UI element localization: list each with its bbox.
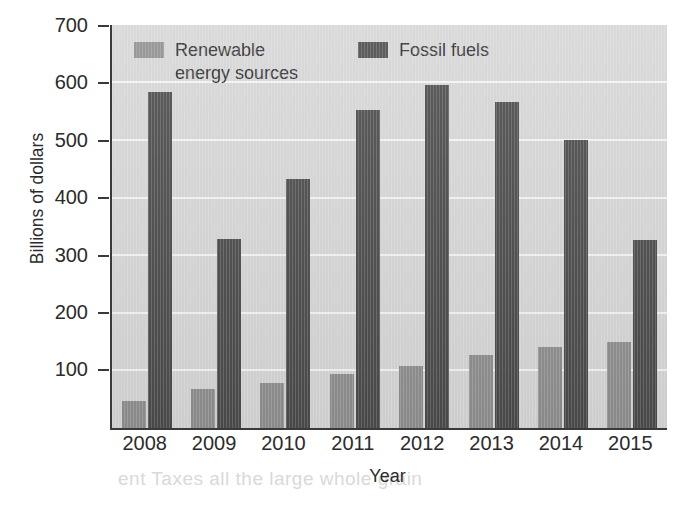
bar-fossil-fuels-2009 [217, 239, 241, 428]
legend-swatch-fossil-fuels-icon [358, 42, 388, 58]
bar-fossil-fuels-2008 [148, 92, 172, 428]
y-tick-label: 200 [42, 302, 88, 322]
x-tick-label: 2010 [249, 433, 318, 453]
bar-group-container [112, 25, 667, 428]
bar-renewable-2009 [191, 389, 215, 428]
y-tick-mark [98, 312, 109, 314]
y-tick-label: 500 [42, 130, 88, 150]
bar-renewable-2015 [607, 342, 631, 428]
legend-label-renewable: Renewable energy sources [175, 39, 298, 84]
y-tick-mark [98, 140, 109, 142]
legend-item-renewable: Renewable energy sources [134, 39, 298, 84]
y-tick-mark [98, 82, 109, 84]
bar-renewable-2011 [330, 374, 354, 428]
y-tick-mark [98, 197, 109, 199]
y-tick-label: 400 [42, 187, 88, 207]
bar-fossil-fuels-2010 [286, 179, 310, 428]
x-tick-label: 2014 [526, 433, 595, 453]
x-tick-label: 2012 [388, 433, 457, 453]
y-axis-tick-labels: 700 600 500 400 300 200 100 [36, 0, 88, 440]
y-tick-mark [98, 369, 109, 371]
legend-item-fossil-fuels: Fossil fuels [358, 39, 489, 62]
bar-fossil-fuels-2013 [495, 102, 519, 428]
x-tick-label: 2013 [457, 433, 526, 453]
bar-fossil-fuels-2014 [564, 140, 588, 428]
bar-renewable-2010 [260, 383, 284, 428]
bar-fossil-fuels-2012 [425, 85, 449, 428]
bar-renewable-2008 [122, 401, 146, 428]
x-tick-label: 2009 [179, 433, 248, 453]
x-tick-label: 2015 [596, 433, 665, 453]
y-tick-label: 700 [42, 15, 88, 35]
y-tick-label: 600 [42, 72, 88, 92]
bar-renewable-2012 [399, 366, 423, 428]
bar-renewable-2014 [538, 347, 562, 428]
chart-legend: Renewable energy sources Fossil fuels [134, 39, 489, 84]
x-tick-label: 2008 [110, 433, 179, 453]
legend-swatch-renewable-icon [134, 42, 164, 58]
bar-chart: Billions of dollars 700 600 500 400 300 … [0, 0, 679, 511]
y-tick-label: 100 [42, 359, 88, 379]
legend-label-fossil-fuels: Fossil fuels [399, 39, 489, 62]
x-tick-label: 2011 [318, 433, 387, 453]
bar-fossil-fuels-2015 [633, 240, 657, 428]
y-tick-mark [98, 25, 109, 27]
bar-renewable-2013 [469, 355, 493, 428]
x-axis-title: Year [110, 466, 665, 487]
plot-area: Renewable energy sources Fossil fuels [110, 25, 667, 430]
x-axis-tick-labels: 20082009201020112012201320142015 [110, 433, 665, 461]
bar-fossil-fuels-2011 [356, 110, 380, 428]
y-tick-mark [98, 255, 109, 257]
y-tick-label: 300 [42, 245, 88, 265]
